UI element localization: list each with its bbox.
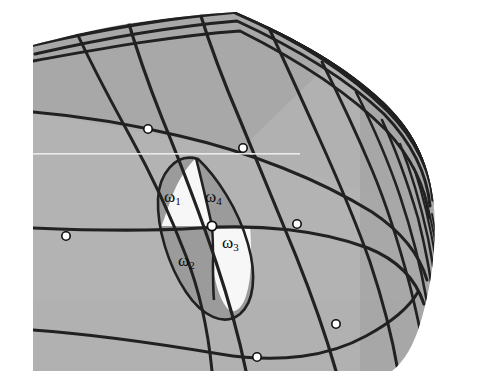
mesh-node bbox=[144, 125, 152, 133]
omega-subscript: 4 bbox=[216, 195, 222, 207]
mesh-node bbox=[62, 232, 70, 240]
subdomain-label-omega2: ω2 bbox=[178, 252, 195, 269]
mesh-node-center bbox=[207, 221, 216, 230]
surface-body bbox=[0, 0, 478, 386]
mesh-line-v12 bbox=[437, 232, 449, 368]
omega-glyph: ω bbox=[222, 233, 233, 252]
scanline-artifact bbox=[33, 153, 300, 155]
omega-glyph: ω bbox=[178, 251, 189, 270]
omega-glyph: ω bbox=[164, 187, 175, 206]
omega-subscript: 2 bbox=[189, 259, 195, 271]
mesh-node bbox=[332, 320, 340, 328]
subdomain-label-omega3: ω3 bbox=[222, 234, 239, 251]
omega-glyph: ω bbox=[205, 187, 216, 206]
mesh-node bbox=[239, 144, 247, 152]
mesh-node bbox=[293, 220, 301, 228]
subdomain-label-omega1: ω1 bbox=[164, 188, 181, 205]
surface-mesh-diagram bbox=[0, 0, 478, 386]
subdomain-label-omega4: ω4 bbox=[205, 188, 222, 205]
figure-root: ω1 ω4 ω2 ω3 bbox=[0, 0, 478, 386]
omega-subscript: 1 bbox=[175, 195, 181, 207]
omega-subscript: 3 bbox=[233, 241, 239, 253]
mesh-node bbox=[253, 353, 261, 361]
